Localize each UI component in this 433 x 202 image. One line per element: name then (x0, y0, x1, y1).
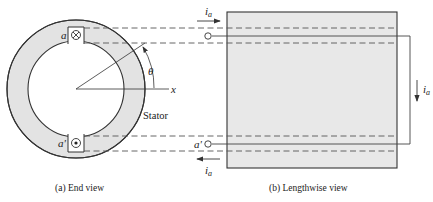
stator-body (227, 12, 397, 168)
terminal-a-prime (205, 141, 211, 147)
end-view: a a' θ x Stator (a) End view (7, 20, 176, 194)
end-view-caption: (a) End view (55, 183, 104, 194)
stator-diagram: a a' θ x Stator (a) End view ia ia ia a'… (0, 0, 433, 202)
x-axis-label: x (170, 83, 176, 95)
theta-label: θ (148, 65, 154, 77)
slot-a-prime-label: a' (58, 137, 67, 149)
lengthwise-view: ia ia ia a' (b) Lengthwise view (194, 5, 430, 194)
stator-label: Stator (143, 110, 169, 121)
terminal-a-prime-label: a' (194, 138, 203, 150)
current-right-label: ia (423, 83, 430, 97)
slot-a (68, 27, 84, 44)
current-top-label: ia (205, 5, 212, 19)
terminal-a (205, 33, 211, 39)
slot-a-label: a (61, 29, 67, 41)
lengthwise-view-caption: (b) Lengthwise view (269, 183, 348, 194)
slot-a-prime (68, 134, 84, 152)
current-bottom-label: ia (205, 164, 212, 178)
